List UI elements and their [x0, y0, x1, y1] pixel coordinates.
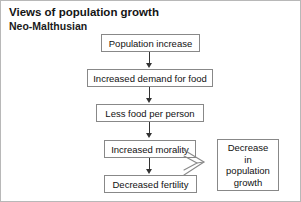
flow-node-less-food-per-person[interactable]: Less food per person	[96, 104, 204, 122]
flow-node-decrease-in-population-growth[interactable]: Decrease in population growth	[217, 139, 279, 191]
flow-node-population-increase[interactable]: Population increase	[101, 34, 200, 52]
outcome-line-3: population	[226, 165, 270, 177]
outcome-line-2: in	[244, 154, 251, 166]
outcome-line-1: Decrease	[228, 142, 269, 154]
page-subtitle: Neo-Malthusian	[9, 20, 87, 32]
connector-1-arrowhead-icon	[146, 63, 152, 68]
connector-2-arrowhead-icon	[146, 98, 152, 103]
diagram-canvas: Views of population growth Neo-Malthusia…	[0, 0, 301, 202]
page-title: Views of population growth	[9, 6, 159, 18]
flow-node-increased-demand-for-food[interactable]: Increased demand for food	[87, 69, 213, 87]
connector-3-arrowhead-icon	[146, 133, 152, 138]
connector-4-arrowhead-icon	[146, 169, 152, 174]
block-arrow-right-icon	[183, 147, 219, 179]
outcome-line-4: growth	[234, 177, 263, 189]
